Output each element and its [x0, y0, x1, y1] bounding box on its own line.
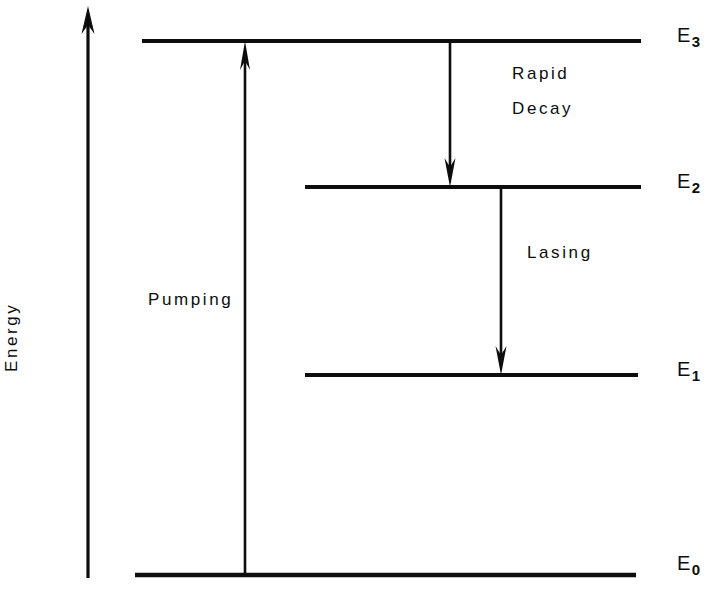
energy-level-diagram: Energy Pumping Rapid Decay Lasing E3 E2 … [0, 0, 719, 591]
rapid-decay-label-line2: Decay [512, 99, 573, 119]
level-label-E0-subscript: 0 [692, 561, 700, 578]
level-label-E3-base: E [677, 24, 691, 46]
level-label-E1-subscript: 1 [692, 367, 700, 384]
pumping-label-text: Pumping [148, 290, 233, 309]
lasing-arrow [496, 187, 507, 375]
level-label-E0: E0 [677, 552, 700, 578]
rapid-decay-label-line1-text: Rapid [512, 64, 569, 83]
level-label-E1-base: E [677, 358, 691, 380]
rapid-decay-label-line1: Rapid [512, 64, 569, 84]
rapid-decay-arrow [445, 41, 456, 187]
level-label-E3-subscript: 3 [692, 33, 700, 50]
pumping-arrow [240, 41, 250, 576]
energy-axis-label-text: Energy [2, 303, 21, 372]
energy-axis-label: Energy [2, 303, 22, 372]
level-label-E3: E3 [677, 24, 700, 50]
lasing-label-text: Lasing [527, 243, 593, 262]
level-label-E2: E2 [677, 170, 700, 196]
rapid-decay-label-line2-text: Decay [512, 99, 573, 118]
level-label-E2-subscript: 2 [692, 179, 700, 196]
pumping-label: Pumping [148, 290, 233, 310]
lasing-label: Lasing [527, 243, 593, 263]
level-label-E0-base: E [677, 552, 691, 574]
diagram-canvas [0, 0, 719, 591]
level-label-E2-base: E [677, 170, 691, 192]
level-label-E1: E1 [677, 358, 700, 384]
energy-axis [82, 6, 95, 578]
